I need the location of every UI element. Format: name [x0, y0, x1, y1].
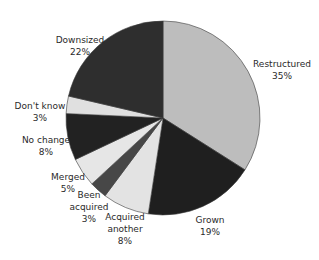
slice-label-downsized: Downsized22%	[56, 34, 105, 58]
slice-percent: 8%	[22, 146, 70, 158]
slice-label-grown: Grown19%	[195, 214, 224, 238]
slice-name: No change	[22, 134, 70, 146]
slice-percent: 3%	[69, 213, 108, 225]
slice-name: Merged	[51, 171, 85, 183]
slice-percent: 8%	[105, 235, 145, 247]
slice-name: Grown	[195, 214, 224, 226]
slice-name: Downsized	[56, 34, 105, 46]
slice-name: Restructured	[253, 58, 311, 70]
slice-percent: 35%	[253, 70, 311, 82]
slice-percent: 22%	[56, 46, 105, 58]
slice-label-acquired: Acquiredanother8%	[105, 211, 145, 247]
slice-name: Acquired	[105, 211, 145, 223]
slice-name: Don't know	[15, 100, 66, 112]
slice-percent: 5%	[51, 183, 85, 195]
slice-name: another	[105, 223, 145, 235]
slice-percent: 3%	[15, 112, 66, 124]
slice-name: acquired	[69, 201, 108, 213]
slice-label-restructured: Restructured35%	[253, 58, 311, 82]
slice-label-no-change: No change8%	[22, 134, 70, 158]
pie-chart	[0, 0, 319, 260]
slice-label-don-t-know: Don't know3%	[15, 100, 66, 124]
slice-percent: 19%	[195, 226, 224, 238]
slice-label-merged: Merged5%	[51, 171, 85, 195]
